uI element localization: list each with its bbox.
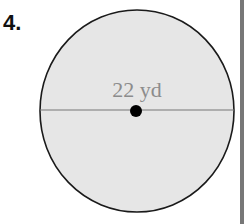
center-point	[130, 105, 142, 117]
circle-diagram: 22 yd	[0, 0, 244, 224]
diameter-label: 22 yd	[112, 77, 162, 102]
